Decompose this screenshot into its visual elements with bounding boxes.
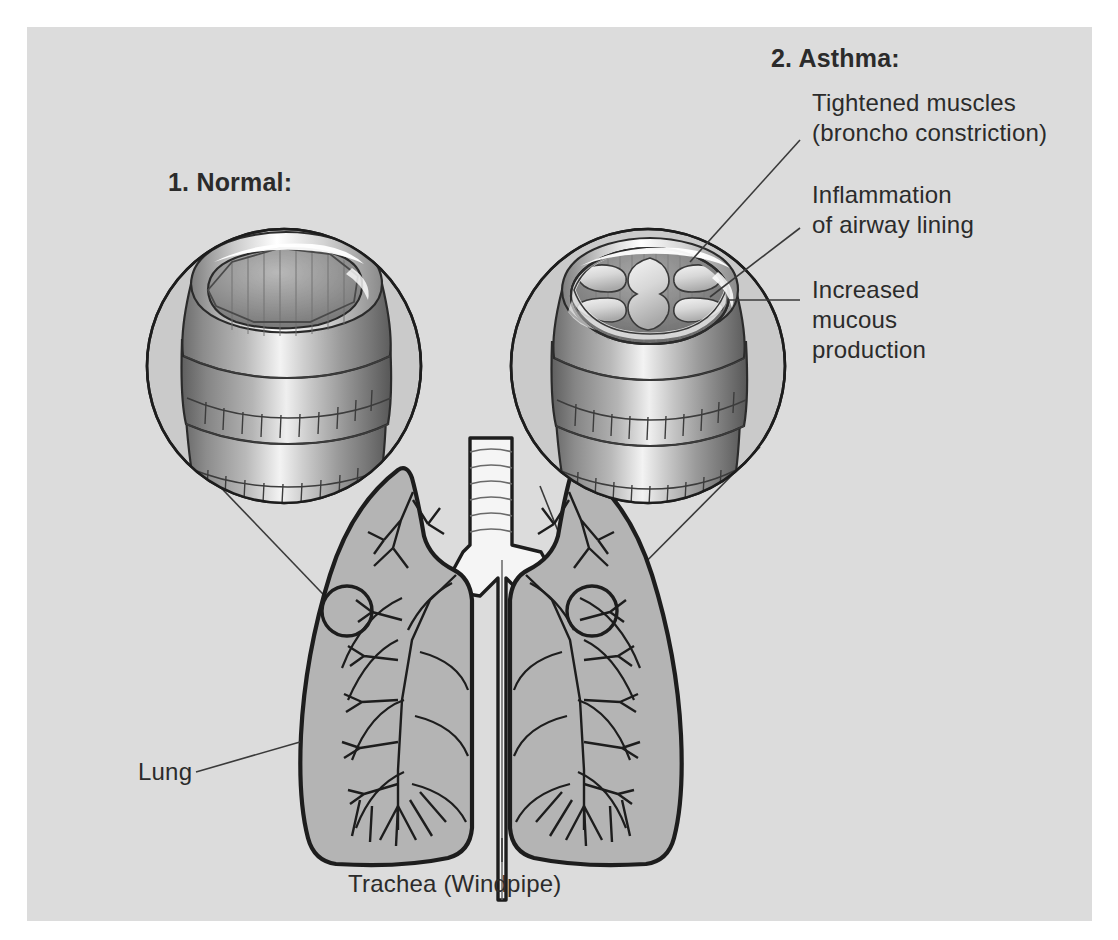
diagram-canvas: 1. Normal: 2. Asthma: Tightened muscles … — [0, 0, 1118, 940]
label-increased-mucous: Increased mucous production — [812, 275, 926, 365]
label-lung: Lung — [138, 757, 192, 787]
lung-right — [510, 468, 682, 865]
label-line-1: Tightened muscles — [812, 88, 1047, 118]
asthma-panel-title: 2. Asthma: — [771, 44, 900, 73]
label-inflammation: Inflammation of airway lining — [812, 180, 974, 240]
label-tightened-muscles: Tightened muscles (broncho constriction) — [812, 88, 1047, 148]
label-line-1: Inflammation — [812, 180, 974, 210]
label-line-2: (broncho constriction) — [812, 118, 1047, 148]
label-line-2: of airway lining — [812, 210, 974, 240]
normal-airway-inset — [147, 229, 421, 510]
label-line-1: Increased — [812, 275, 926, 305]
label-trachea: Trachea (Windpipe) — [348, 869, 561, 899]
lung-left — [300, 468, 472, 865]
normal-panel-title: 1. Normal: — [168, 168, 292, 197]
label-line-3: production — [812, 335, 926, 365]
lung-anatomy — [300, 438, 681, 900]
label-line-2: mucous — [812, 305, 926, 335]
